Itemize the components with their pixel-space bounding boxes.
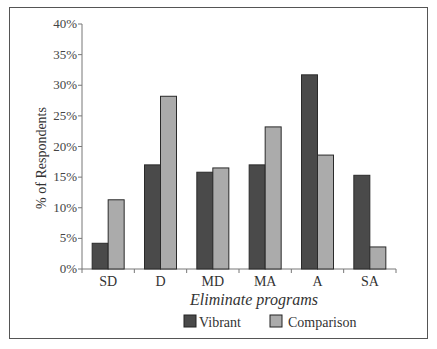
legend-swatch-vibrant	[184, 315, 196, 327]
legend-label-vibrant: Vibrant	[199, 315, 241, 330]
bar-vibrant-md	[197, 172, 213, 269]
y-axis: 0%5%10%15%20%25%30%35%40%	[53, 16, 82, 276]
bar-chart: 0%5%10%15%20%25%30%35%40% SDDMDMAASA % o…	[0, 0, 437, 349]
bar-comparison-sa	[370, 247, 386, 269]
bar-vibrant-d	[145, 165, 161, 269]
bar-comparison-sd	[108, 200, 124, 269]
x-category-label: MD	[202, 274, 225, 289]
y-tick-label: 30%	[53, 77, 77, 92]
bar-vibrant-a	[302, 75, 318, 269]
bar-comparison-ma	[265, 127, 281, 269]
x-axis-title: Eliminate programs	[189, 291, 318, 309]
x-category-label: MA	[254, 274, 277, 289]
legend: Vibrant Comparison	[184, 315, 356, 330]
y-tick-label: 25%	[53, 108, 77, 123]
y-tick-label: 5%	[60, 230, 78, 245]
y-axis-title: % of Respondents	[34, 107, 49, 209]
bar-vibrant-sd	[92, 243, 108, 269]
legend-label-comparison: Comparison	[288, 315, 356, 330]
y-tick-label: 0%	[60, 261, 78, 276]
bar-comparison-a	[318, 155, 334, 269]
y-tick-label: 10%	[53, 200, 77, 215]
legend-swatch-comparison	[270, 315, 282, 327]
y-tick-label: 20%	[53, 139, 77, 154]
x-category-label: D	[155, 274, 165, 289]
y-tick-label: 15%	[53, 169, 77, 184]
bars	[92, 75, 386, 269]
bar-vibrant-sa	[354, 175, 370, 269]
y-tick-label: 35%	[53, 47, 77, 62]
y-tick-label: 40%	[53, 16, 77, 31]
x-axis: SDDMDMAASA	[82, 269, 396, 289]
bar-comparison-d	[161, 96, 177, 269]
x-category-label: SA	[361, 274, 380, 289]
x-category-label: SD	[99, 274, 117, 289]
bar-comparison-md	[213, 168, 229, 269]
x-category-label: A	[312, 274, 323, 289]
bar-vibrant-ma	[249, 165, 265, 269]
